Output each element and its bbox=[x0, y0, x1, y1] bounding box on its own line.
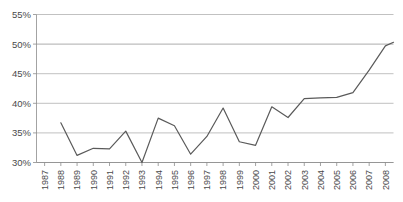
x-axis-label-1995: 1995 bbox=[170, 170, 180, 190]
x-axis-label-2006: 2006 bbox=[348, 170, 358, 190]
x-axis-label-1991: 1991 bbox=[105, 170, 115, 190]
x-axis-label-2000: 2000 bbox=[251, 170, 261, 190]
x-axis-label-1988: 1988 bbox=[56, 170, 66, 190]
x-axis-label-2007: 2007 bbox=[364, 170, 374, 190]
y-axis-label-50%: 50% bbox=[12, 39, 32, 50]
x-axis-label-1992: 1992 bbox=[121, 170, 131, 190]
x-axis-label-1989: 1989 bbox=[72, 170, 82, 190]
y-axis-label-40%: 40% bbox=[12, 98, 32, 109]
data-series-line bbox=[61, 42, 394, 162]
x-axis-label-2001: 2001 bbox=[267, 170, 277, 190]
y-axis-label-45%: 45% bbox=[12, 68, 32, 79]
y-axis-label-35%: 35% bbox=[12, 127, 32, 138]
x-axis-label-1990: 1990 bbox=[89, 170, 99, 190]
x-axis-label-1996: 1996 bbox=[186, 170, 196, 190]
x-axis-label-1999: 1999 bbox=[235, 170, 245, 190]
x-axis-label-2004: 2004 bbox=[316, 170, 326, 190]
x-axis-label-1994: 1994 bbox=[154, 170, 164, 190]
plot-area: 55%50%45%40%35%30%1987198819891990199119… bbox=[0, 0, 403, 202]
x-axis-label-1998: 1998 bbox=[218, 170, 228, 190]
x-axis-label-1987: 1987 bbox=[40, 170, 50, 190]
x-axis-label-2003: 2003 bbox=[300, 170, 310, 190]
x-axis-label-2005: 2005 bbox=[332, 170, 342, 190]
x-axis-label-2002: 2002 bbox=[283, 170, 293, 190]
x-axis-label-1993: 1993 bbox=[137, 170, 147, 190]
chart-svg: 55%50%45%40%35%30%1987198819891990199119… bbox=[0, 0, 403, 202]
y-axis-label-30%: 30% bbox=[12, 157, 32, 168]
y-axis-label-55%: 55% bbox=[12, 9, 32, 20]
line-chart: 55%50%45%40%35%30%1987198819891990199119… bbox=[0, 0, 403, 202]
x-axis-label-1997: 1997 bbox=[202, 170, 212, 190]
x-axis-label-2008: 2008 bbox=[381, 170, 391, 190]
